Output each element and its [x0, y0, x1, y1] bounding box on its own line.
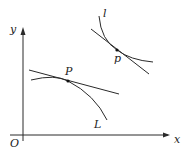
point-P-label: P: [64, 65, 73, 78]
point-p-label: p: [114, 52, 121, 65]
curve-l: [99, 16, 153, 62]
y-axis-label: y: [9, 23, 17, 36]
x-axis-label: x: [174, 133, 181, 146]
tangent-line-P: [29, 70, 119, 94]
point-P: [66, 79, 69, 82]
x-axis-arrow-icon: [163, 133, 170, 138]
curve-l-label: l: [103, 7, 107, 20]
y-axis-arrow-icon: [21, 27, 26, 35]
curve-l-group: [91, 16, 153, 74]
axes: [10, 27, 170, 141]
curve-L: [31, 77, 107, 120]
origin-label: O: [10, 137, 19, 150]
curve-L-label: L: [93, 118, 101, 131]
curve-L-group: [29, 70, 119, 120]
diagram-canvas: x y O P L l p: [0, 0, 187, 153]
